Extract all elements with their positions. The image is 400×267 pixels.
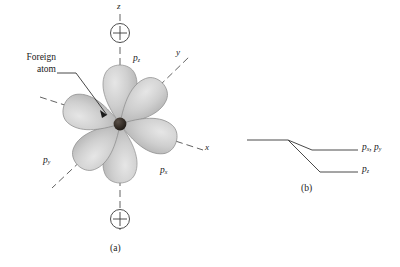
orbital-label-py: py (43, 156, 50, 166)
foreign-atom-annotation: Foreign atom (6, 52, 56, 76)
orbital-label-px: px (160, 166, 167, 176)
level-label-px-py: px, py (362, 143, 381, 153)
axis-label-y: y (176, 48, 180, 57)
caption-a: (a) (110, 243, 121, 253)
level-label-py-sub: y (379, 146, 382, 152)
axis-label-x: x (205, 143, 209, 152)
axis-label-z: z (117, 2, 121, 11)
orbital-label-px-sub: x (165, 169, 168, 175)
level-label-pz: pz (362, 165, 369, 175)
foreign-atom-line2: atom (37, 64, 56, 74)
panel-b (247, 140, 358, 172)
orbital-label-pz: pz (133, 54, 140, 64)
charge-top (111, 24, 130, 43)
foreign-atom-line1: Foreign (26, 52, 56, 62)
orbital-label-py-sub: y (48, 159, 51, 165)
caption-b: (b) (301, 183, 312, 193)
level-label-pz-sub: z (367, 168, 369, 174)
orbital-label-pz-sub: z (138, 57, 140, 63)
charge-bottom (111, 210, 130, 229)
level-px-py (288, 140, 358, 150)
orbital-splitting-figure (0, 0, 400, 267)
central-atom (114, 118, 127, 131)
